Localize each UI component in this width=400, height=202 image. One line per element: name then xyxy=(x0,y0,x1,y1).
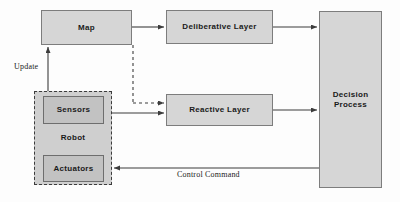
node-reactive-layer[interactable]: Reactive Layer xyxy=(166,94,273,126)
node-decision-process-line1: Decision xyxy=(333,90,369,99)
node-sensors-label: Sensors xyxy=(57,105,91,115)
robot-group-label: Robot xyxy=(34,133,112,142)
node-reactive-layer-label: Reactive Layer xyxy=(189,105,250,115)
node-decision-process[interactable]: Decision Process xyxy=(319,11,382,188)
node-deliberative-layer[interactable]: Deliberative Layer xyxy=(166,10,273,44)
node-decision-process-line2: Process xyxy=(334,100,367,109)
edge-label-update: Update xyxy=(14,62,38,71)
node-decision-process-label: Decision Process xyxy=(333,90,369,110)
node-map[interactable]: Map xyxy=(41,10,132,45)
edge-label-control-command: Control Command xyxy=(177,170,240,179)
node-sensors[interactable]: Sensors xyxy=(43,96,104,124)
node-actuators-label: Actuators xyxy=(53,164,93,174)
node-actuators[interactable]: Actuators xyxy=(43,155,104,182)
node-map-label: Map xyxy=(78,23,95,33)
architecture-diagram: Map Deliberative Layer Reactive Layer De… xyxy=(0,0,400,202)
node-deliberative-layer-label: Deliberative Layer xyxy=(182,22,256,32)
